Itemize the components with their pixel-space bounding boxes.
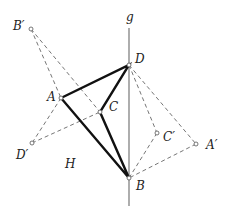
point-label-d: D [134,52,145,66]
point-label-b: B [135,179,145,193]
point-label-c: C [109,100,118,114]
dashed-segment-d-c_ [129,65,157,133]
point-label-b-prime: B′ [12,19,25,33]
dashed-segment-d_-c [32,112,100,143]
dashed-segment-b_-c [31,29,100,112]
point-label-a: A [46,90,56,104]
point-marker-c-prime [155,131,159,135]
point-marker-d [127,63,131,67]
geometry-figure: g H A B C D A′ B′ C′ D′ [0,0,235,211]
region-label-h: H [64,157,76,171]
point-marker-a-prime [194,142,198,146]
point-label-d-prime: D′ [15,148,29,162]
point-marker-c [98,110,102,114]
point-labels: g H A B C D A′ B′ C′ D′ [12,10,218,193]
point-marker-b [127,176,131,180]
axis-label-g: g [126,10,134,24]
point-marker-a [59,96,63,100]
point-marker-b-prime [29,27,33,31]
dashed-segment-a_-b [129,144,196,178]
point-label-a-prime: A′ [205,138,218,152]
point-marker-d-prime [30,141,34,145]
point-label-c-prime: C′ [163,130,175,144]
dashed-segment-b_-a [31,29,61,98]
diagram-canvas: g H A B C D A′ B′ C′ D′ [0,0,235,211]
